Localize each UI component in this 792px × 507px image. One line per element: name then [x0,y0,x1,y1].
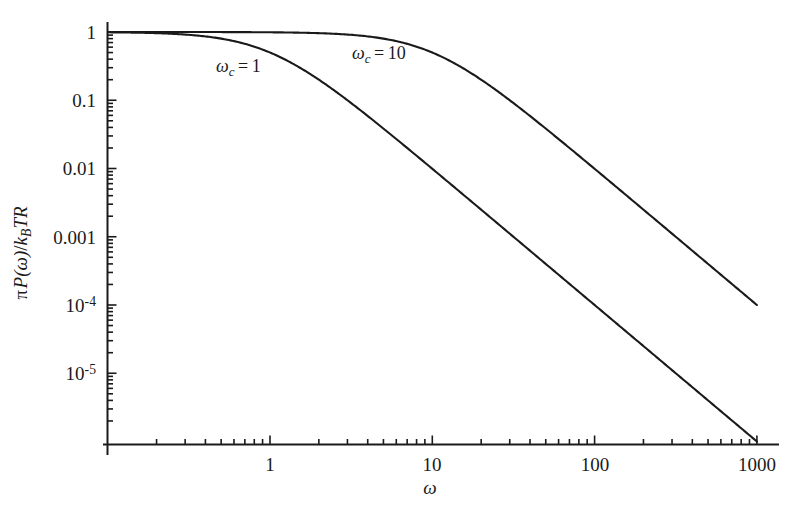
x-tick-label-10: 10 [423,455,442,474]
figure-container: 1 0.1 0.01 0.001 10-4 10-5 1 10 100 1000… [0,0,792,507]
omega-c-1-symbol: ω [216,56,229,76]
omega-c-10-label: ωc = 10 [352,44,406,66]
y-axis-title-t: T [10,218,31,229]
y-axis-title-r: R [10,206,31,218]
y-axis-title-k-subscript: B [19,229,34,237]
y-tick-exponent-1e-4: -4 [85,294,96,309]
y-tick-mantissa-1e-4: 10 [66,295,85,316]
y-axis-title: π P(ω)/kBTR [11,206,34,299]
x-axis-title: ω [423,478,436,497]
y-axis-ticks [108,32,117,421]
y-axis-title-spacer [10,288,31,290]
x-tick-label-1: 1 [265,455,275,474]
plot-area [0,0,792,507]
y-axis-title-p-omega: P(ω) [10,251,31,289]
y-tick-mantissa-1e-5: 10 [66,363,85,384]
x-tick-label-1000: 1000 [738,455,776,474]
y-tick-label-0.1: 0.1 [0,91,96,110]
curve-omega-c-1 [109,32,757,441]
x-tick-label-100: 100 [581,455,610,474]
y-tick-label-1: 1 [0,23,96,42]
y-tick-exponent-1e-5: -5 [85,362,96,377]
y-tick-label-0.01: 0.01 [0,159,96,178]
omega-c-10-value: 10 [388,43,406,63]
omega-c-1-label: ωc = 1 [216,57,261,79]
y-axis-title-pi: π [10,290,31,300]
y-axis-title-slash: / [10,245,31,250]
omega-c-10-symbol: ω [352,43,365,63]
y-axis-title-k: k [10,237,31,245]
omega-c-1-value: 1 [252,56,261,76]
omega-c-10-equals-sign: = [374,43,384,63]
x-axis-ticks [157,436,757,445]
y-tick-label-1e-5: 10-5 [0,363,96,384]
omega-c-1-equals-sign: = [238,56,248,76]
